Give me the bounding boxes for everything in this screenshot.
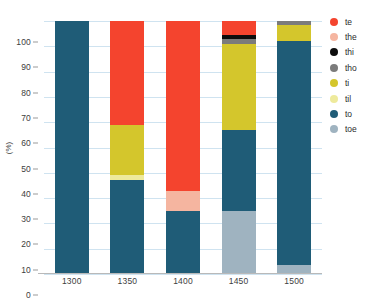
legend-item-to[interactable]: to [330,106,382,121]
bar-segment-til[interactable] [110,175,144,180]
y-axis-title: (%) [4,141,13,153]
y-axis-tick-mark [33,295,38,296]
y-axis-tick-mark [33,143,38,144]
x-axis-tick-label: 1400 [173,276,193,286]
y-axis-tick-label: 40 [21,189,31,199]
legend-item-label: to [345,109,352,119]
y-axis: (%) 0102030405060708090100 [0,21,40,274]
bar-segment-to[interactable] [277,41,311,265]
legend-item-label: ti [345,78,349,88]
bar-1300[interactable] [55,21,89,274]
y-axis-tick-mark [33,244,38,245]
legend-swatch-icon [330,125,338,133]
bar-segment-to[interactable] [55,21,89,274]
legend-swatch-icon [330,48,338,56]
legend-item-the[interactable]: the [330,29,382,44]
x-axis: 13001350140014501500 [44,276,322,294]
legend-swatch-icon [330,64,338,72]
y-axis-tick-label: 80 [21,88,31,98]
y-axis-tick-mark [33,92,38,93]
y-axis-tick-label: 70 [21,113,31,123]
bar-segment-to[interactable] [222,130,256,211]
bar-segment-ti[interactable] [277,25,311,41]
bar-1350[interactable] [110,21,144,274]
bar-1450[interactable] [222,21,256,274]
gridline [44,274,322,275]
legend-swatch-icon [330,95,338,103]
legend-item-tho[interactable]: tho [330,60,382,75]
bar-segment-to[interactable] [166,211,200,274]
bar-segment-tho[interactable] [222,39,256,44]
bar-segment-thi[interactable] [222,35,256,39]
y-axis-tick-label: 20 [21,239,31,249]
x-axis-tick-label: 1300 [62,276,82,286]
legend-item-thi[interactable]: thi [330,45,382,60]
legend-item-label: tho [345,63,357,73]
legend-swatch-icon [330,110,338,118]
legend-swatch-icon [330,79,338,87]
legend-item-label: til [345,94,351,104]
bar-segment-tho[interactable] [277,21,311,25]
y-axis-tick-mark [33,269,38,270]
legend: tethethithotitiltotoe [330,14,382,137]
bar-segment-the[interactable] [166,191,200,211]
legend-item-toe[interactable]: toe [330,122,382,137]
y-axis-tick-mark [33,67,38,68]
bar-segment-ti[interactable] [110,125,144,176]
bar-1500[interactable] [277,21,311,274]
bars-layer [44,21,322,274]
legend-swatch-icon [330,33,338,41]
y-axis-tick-label: 30 [21,214,31,224]
legend-item-label: the [345,32,357,42]
y-axis-tick-mark [33,219,38,220]
legend-item-label: toe [345,124,357,134]
legend-item-ti[interactable]: ti [330,76,382,91]
y-axis-tick-label: 10 [21,265,31,275]
bar-segment-ti[interactable] [222,44,256,130]
legend-item-label: te [345,17,352,27]
x-axis-tick-label: 1500 [284,276,304,286]
bar-segment-to[interactable] [110,180,144,274]
bar-segment-te[interactable] [110,21,144,125]
x-axis-tick-label: 1350 [118,276,138,286]
y-axis-tick-label: 90 [21,62,31,72]
plot-area [44,21,322,274]
x-axis-line [38,273,322,274]
legend-item-label: thi [345,47,354,57]
bar-segment-toe[interactable] [222,211,256,274]
y-axis-tick-label: 100 [16,37,31,47]
y-axis-tick-label: 0 [26,290,31,300]
y-axis-tick-label: 50 [21,164,31,174]
stacked-bar-chart: (%) 0102030405060708090100 1300135014001… [0,0,382,302]
y-axis-tick-mark [33,168,38,169]
legend-item-te[interactable]: te [330,14,382,29]
bar-segment-te[interactable] [166,21,200,191]
y-axis-tick-label: 60 [21,138,31,148]
y-axis-tick-mark [33,193,38,194]
bar-segment-te[interactable] [222,21,256,35]
y-axis-tick-mark [33,117,38,118]
legend-item-til[interactable]: til [330,91,382,106]
legend-swatch-icon [330,18,338,26]
y-axis-tick-mark [33,42,38,43]
x-axis-tick-label: 1450 [229,276,249,286]
bar-1400[interactable] [166,21,200,274]
